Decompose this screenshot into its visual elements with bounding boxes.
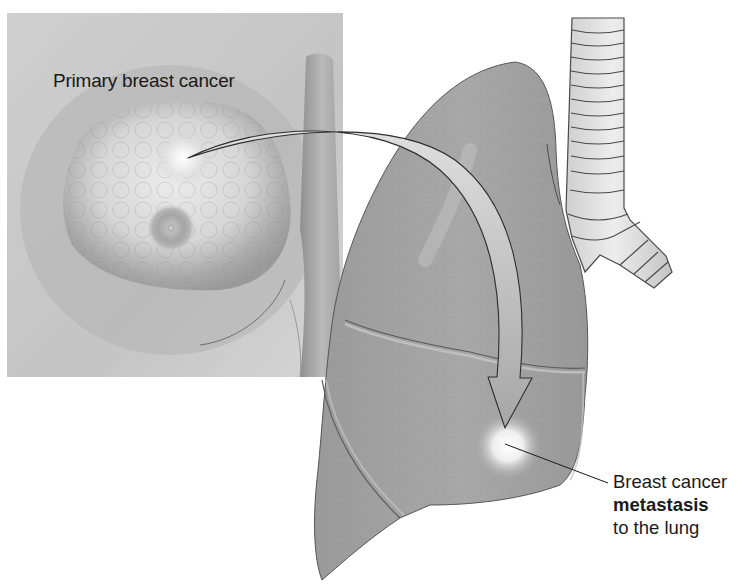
metastasis-label-line3: to the lung <box>613 516 727 539</box>
metastasis-label-line2: metastasis <box>613 493 727 516</box>
trachea-illustration <box>566 18 672 288</box>
lung-illustration <box>315 62 588 580</box>
metastasis-label: Breast cancer metastasis to the lung <box>613 470 727 539</box>
breast-illustration <box>7 13 343 377</box>
metastasis-label-line1: Breast cancer <box>613 470 727 493</box>
primary-tumor <box>155 130 211 186</box>
metastasis-diagram: Primary breast cancer Breast cancer meta… <box>0 0 750 588</box>
primary-breast-cancer-label: Primary breast cancer <box>53 70 235 92</box>
